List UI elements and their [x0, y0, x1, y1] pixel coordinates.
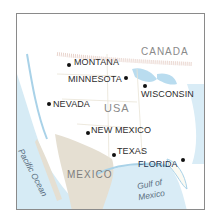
country-label-canada: CANADA — [141, 46, 189, 57]
marker-florida — [181, 158, 185, 162]
state-label-texas: TEXAS — [117, 146, 147, 156]
map-frame: CANADA USA MEXICO Pacific Ocean Gulf of … — [16, 13, 205, 210]
country-label-usa: USA — [104, 102, 130, 114]
marker-texas — [112, 153, 116, 157]
marker-nevada — [47, 102, 51, 106]
state-label-florida: FLORIDA — [138, 159, 178, 169]
state-label-minnesota: MINNESOTA — [68, 74, 122, 84]
state-label-nevada: NEVADA — [53, 99, 90, 109]
state-label-new-mexico: NEW MEXICO — [91, 125, 151, 135]
state-label-montana: MONTANA — [74, 57, 119, 67]
marker-minnesota — [124, 76, 128, 80]
marker-new-mexico — [86, 131, 90, 135]
country-label-mexico: MEXICO — [67, 169, 112, 180]
marker-wisconsin — [143, 84, 147, 88]
marker-montana — [67, 63, 71, 67]
state-label-wisconsin: WISCONSIN — [141, 89, 194, 99]
